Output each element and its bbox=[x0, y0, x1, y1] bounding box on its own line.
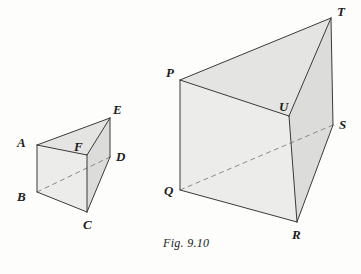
vertex-label-d: D bbox=[116, 150, 125, 163]
figure-caption: Fig. 9.10 bbox=[163, 236, 209, 251]
vertex-label-a: A bbox=[17, 136, 26, 149]
vertex-label-u: U bbox=[279, 100, 288, 113]
prism-diagram-canvas bbox=[0, 0, 361, 274]
geometry-figure: ABCDEFPQRSTUFig. 9.10 bbox=[0, 0, 361, 274]
small-triangular-prism bbox=[37, 118, 110, 212]
vertex-label-t: T bbox=[337, 5, 345, 18]
vertex-label-c: C bbox=[83, 218, 92, 231]
vertex-label-q: Q bbox=[164, 184, 173, 197]
vertex-label-e: E bbox=[113, 103, 122, 116]
vertex-label-p: P bbox=[166, 66, 174, 79]
large-triangular-prism bbox=[180, 18, 333, 222]
vertex-label-s: S bbox=[339, 118, 346, 131]
vertex-label-r: R bbox=[292, 228, 301, 241]
vertex-label-f: F bbox=[74, 140, 83, 153]
vertex-label-b: B bbox=[17, 190, 26, 203]
